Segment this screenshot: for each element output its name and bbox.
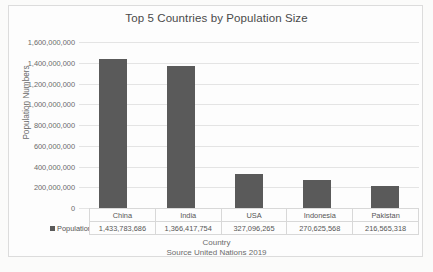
table-cell-category: China [90,209,156,222]
plot-area: 1,600,000,0001,400,000,0001,200,000,0001… [79,42,419,208]
source-note: Source United Nations 2019 [9,248,424,257]
table-cell-category: USA [221,209,287,222]
bar-slot [351,42,419,208]
y-axis-tick-label: 1,200,000,000 [28,79,75,88]
chart-frame: Top 5 Countries by Population Size Popul… [8,5,423,257]
bar-usa[interactable] [235,174,263,208]
y-axis-tick-label: 800,000,000 [34,121,75,130]
table-cell-value: 216,565,318 [353,222,419,235]
y-axis-tick-label: 1,000,000,000 [28,100,75,109]
legend-blank-cell [49,209,90,222]
bar-china[interactable] [99,59,127,208]
x-axis-title: Country [9,238,424,247]
y-axis-tick-label: 1,600,000,000 [28,38,75,47]
legend-entry-population: Population [49,222,90,235]
table-cell-value: 1,366,417,754 [155,222,221,235]
bar-india[interactable] [167,66,195,208]
legend-label: Population [57,224,90,233]
data-table: ChinaIndiaUSAIndonesiaPakistan Populatio… [49,208,419,235]
y-axis-tick-label: 400,000,000 [34,162,75,171]
table-cell-category: Indonesia [287,209,353,222]
chart-title: Top 5 Countries by Population Size [9,12,424,24]
table-cell-category: India [155,209,221,222]
table-row-values: Population 1,433,783,6861,366,417,754327… [49,222,419,235]
table-cell-value: 270,625,568 [287,222,353,235]
table-cell-category: Pakistan [353,209,419,222]
y-axis-tick-label: 200,000,000 [34,183,75,192]
screenshot-page: Top 5 Countries by Population Size Popul… [0,0,433,272]
bar-slot [215,42,283,208]
legend-swatch-icon [50,226,55,231]
bar-slot [283,42,351,208]
bar-pakistan[interactable] [371,186,399,208]
bar-slot [147,42,215,208]
y-axis-tick-label: 600,000,000 [34,141,75,150]
table-cell-value: 327,096,265 [221,222,287,235]
bar-indonesia[interactable] [303,180,331,208]
bar-slot [79,42,147,208]
table-row-categories: ChinaIndiaUSAIndonesiaPakistan [49,209,419,222]
table-cell-value: 1,433,783,686 [90,222,156,235]
y-axis-tick-label: 1,400,000,000 [28,58,75,67]
